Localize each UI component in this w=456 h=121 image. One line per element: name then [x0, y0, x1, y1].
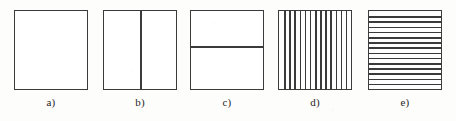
figure-b: b) — [95, 0, 185, 121]
hatch-line-horizontal — [369, 42, 441, 44]
figure-caption-a: a) — [6, 96, 96, 108]
figure-e: e) — [360, 0, 450, 121]
hatch-line-vertical — [294, 11, 296, 89]
figure-caption-c: c) — [182, 96, 272, 108]
horizontal-divider-line — [191, 46, 263, 48]
hatch-line-horizontal — [369, 21, 441, 23]
square-outline-a — [14, 10, 88, 90]
hatch-line-vertical — [310, 11, 312, 89]
square-outline-e — [368, 10, 442, 90]
hatch-line-horizontal — [369, 73, 441, 75]
hatch-line-vertical — [284, 11, 286, 89]
hatch-line-horizontal — [369, 47, 441, 49]
hatch-line-vertical — [346, 11, 348, 89]
hatch-line-horizontal — [369, 79, 441, 81]
hatch-line-horizontal — [369, 32, 441, 34]
hatch-line-vertical — [315, 11, 317, 89]
hatch-line-horizontal — [369, 58, 441, 60]
figure-d: d) — [270, 0, 360, 121]
hatch-line-vertical — [289, 11, 291, 89]
hatch-line-horizontal — [369, 16, 441, 18]
hatch-line-vertical — [330, 11, 332, 89]
hatch-line-horizontal — [369, 37, 441, 39]
hatch-line-vertical — [336, 11, 338, 89]
hatch-line-vertical — [300, 11, 302, 89]
figure-a: a) — [6, 0, 96, 121]
hatch-line-horizontal — [369, 27, 441, 29]
hatch-line-vertical — [320, 11, 322, 89]
hatch-line-vertical — [305, 11, 307, 89]
hatch-line-horizontal — [369, 63, 441, 65]
vertical-divider-line — [140, 11, 142, 89]
figure-caption-d: d) — [270, 96, 360, 108]
hatch-line-horizontal — [369, 68, 441, 70]
figure-c: c) — [182, 0, 272, 121]
hatch-line-vertical — [325, 11, 327, 89]
figure-caption-b: b) — [95, 96, 185, 108]
figure-row: a) b) c) d) e) — [0, 0, 456, 121]
figure-caption-e: e) — [360, 96, 450, 108]
hatch-line-horizontal — [369, 84, 441, 86]
square-outline-b — [103, 10, 177, 90]
square-outline-d — [278, 10, 352, 90]
square-outline-c — [190, 10, 264, 90]
hatch-line-horizontal — [369, 53, 441, 55]
hatch-line-vertical — [341, 11, 343, 89]
